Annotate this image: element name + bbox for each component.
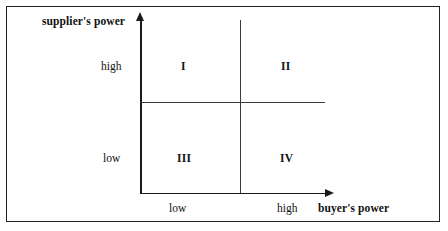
x-axis-title: buyer's power	[318, 203, 389, 215]
figure-border	[6, 6, 440, 222]
quadrant-label-iv: IV	[280, 153, 293, 165]
quadrant-label-ii: II	[281, 61, 291, 73]
vertical-divider-line	[240, 20, 241, 193]
y-axis-line	[140, 20, 142, 194]
quadrant-label-i: I	[181, 61, 186, 73]
x-axis-tick-low: low	[169, 203, 186, 215]
y-axis-tick-low: low	[103, 153, 120, 165]
horizontal-divider-line	[141, 102, 325, 103]
x-axis-line	[140, 193, 327, 195]
quadrant-matrix-figure: supplier's power buyer's power high low …	[0, 0, 448, 231]
y-axis-tick-high: high	[101, 61, 121, 73]
y-axis-arrowhead-icon	[136, 12, 144, 21]
quadrant-label-iii: III	[177, 153, 191, 165]
y-axis-title: supplier's power	[42, 16, 125, 28]
x-axis-tick-high: high	[277, 203, 297, 215]
x-axis-arrowhead-icon	[325, 189, 334, 197]
